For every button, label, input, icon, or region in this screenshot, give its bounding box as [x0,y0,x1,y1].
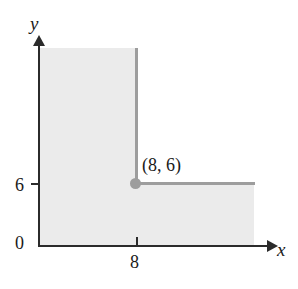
y-axis-label: y [30,14,38,33]
y-axis-arrowhead-icon [33,35,45,46]
shaded-region-lower-block [40,184,254,246]
shaded-region-upper-block [40,48,137,184]
region-boundary-horizontal-line [135,182,255,185]
x-axis-tick-label-8: 8 [130,253,139,271]
x-axis-tick-8 [136,237,138,246]
region-boundary-vertical-line [135,48,138,185]
x-axis-line [38,245,271,247]
x-axis-label: x [277,240,285,259]
corner-point-label: (8, 6) [142,156,181,174]
y-axis-line [38,44,40,247]
coordinate-plane-figure: y x 6 0 8 (8, 6) [0,0,298,289]
y-axis-tick-label-6: 6 [15,176,24,194]
corner-point-marker [130,178,141,189]
y-axis-tick-6 [31,183,40,185]
origin-label: 0 [15,234,24,252]
